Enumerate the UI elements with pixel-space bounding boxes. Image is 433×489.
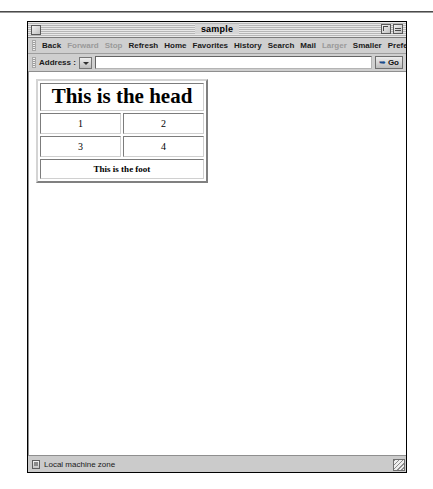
table-head: This is the head [40, 83, 204, 111]
table-row: This is the foot [40, 159, 204, 179]
toolbar-button-mail[interactable]: Mail [297, 39, 319, 53]
go-arrow-icon: ➥ [379, 59, 386, 67]
table-foot-cell: This is the foot [40, 159, 204, 179]
address-input[interactable] [95, 56, 372, 69]
browser-toolbar: Back Forward Stop Refresh Home Favorites… [28, 38, 406, 54]
page-content-area: This is the head 1 2 3 4 This is the foo… [28, 71, 406, 455]
chevron-down-icon[interactable] [79, 57, 92, 69]
security-zone-icon [32, 460, 40, 469]
window-resize-grip[interactable] [393, 459, 405, 471]
window-title: sample [28, 22, 406, 37]
browser-window: sample Back Forward Stop Refresh Home Fa… [27, 21, 407, 473]
go-button-label: Go [388, 59, 399, 67]
toolbar-button-home[interactable]: Home [161, 39, 189, 53]
sample-table: This is the head 1 2 3 4 This is the foo… [36, 79, 208, 183]
toolbar-button-back[interactable]: Back [39, 39, 64, 53]
table-row: 1 2 [40, 113, 204, 134]
go-button[interactable]: ➥ Go [375, 56, 403, 69]
toolbar-button-preferences[interactable]: Preferences [385, 39, 406, 53]
toolbar-button-search[interactable]: Search [265, 39, 298, 53]
toolbar-button-larger: Larger [319, 39, 350, 53]
table-row: This is the head [40, 83, 204, 111]
status-bar: Local machine zone [28, 455, 406, 472]
toolbar-button-refresh[interactable]: Refresh [125, 39, 161, 53]
toolbar-button-forward: Forward [64, 39, 102, 53]
table-cell: 1 [40, 113, 121, 134]
window-controls [381, 24, 403, 34]
table-row: 3 4 [40, 136, 204, 157]
collapse-box-icon[interactable] [393, 24, 403, 34]
status-zone-text: Local machine zone [44, 460, 115, 469]
address-bar-drag-grip[interactable] [32, 57, 36, 68]
table-head-cell: This is the head [40, 83, 204, 111]
window-titlebar[interactable]: sample [28, 22, 406, 38]
window-title-label: sample [195, 24, 239, 34]
table-foot: This is the foot [40, 159, 204, 179]
toolbar-button-smaller[interactable]: Smaller [350, 39, 385, 53]
toolbar-button-favorites[interactable]: Favorites [190, 39, 232, 53]
table-cell: 4 [123, 136, 204, 157]
zoom-box-icon[interactable] [381, 24, 391, 34]
toolbar-drag-grip[interactable] [32, 40, 36, 51]
toolbar-button-stop: Stop [102, 39, 126, 53]
table-cell: 3 [40, 136, 121, 157]
table-body: 1 2 3 4 [40, 113, 204, 157]
table-cell: 2 [123, 113, 204, 134]
toolbar-button-history[interactable]: History [231, 39, 265, 53]
address-label: Address : [39, 58, 76, 67]
page-top-rule-shadow [0, 12, 433, 13]
address-bar: Address : ➥ Go [28, 54, 406, 72]
